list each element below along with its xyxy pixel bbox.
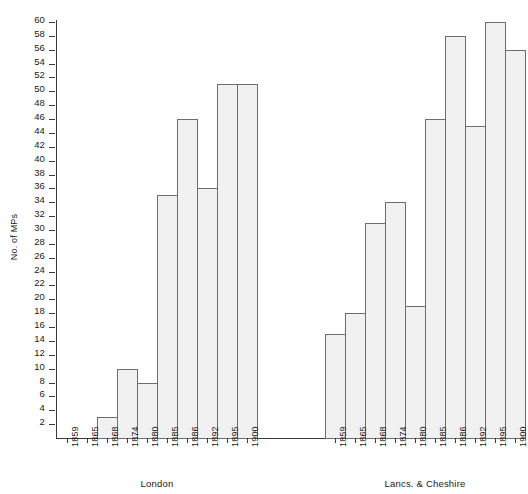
y-tick-mark (49, 396, 55, 397)
y-tick-label: 38 (15, 168, 45, 178)
y-tick-label: 54 (15, 57, 45, 67)
group-title-lancs-cheshire: Lancs. & Cheshire (325, 478, 525, 489)
y-tick-mark (49, 244, 55, 245)
y-tick-label: 40 (15, 154, 45, 164)
y-tick-label: 24 (15, 265, 45, 275)
y-tick-mark (49, 105, 55, 106)
x-tick-label: 1895 (231, 426, 240, 447)
y-tick-mark (49, 424, 55, 425)
bar (505, 50, 526, 439)
y-tick-mark (49, 64, 55, 65)
y-tick-mark (49, 50, 55, 51)
x-tick-label: 1895 (499, 426, 508, 447)
y-tick-label: 2 (15, 417, 45, 427)
bar (197, 188, 218, 439)
x-tick-label: 1859 (71, 426, 80, 447)
bar (345, 313, 366, 439)
y-tick-label: 56 (15, 43, 45, 53)
y-tick-mark (49, 299, 55, 300)
x-tick-mark (515, 438, 516, 443)
y-tick-label: 10 (15, 362, 45, 372)
y-tick-label: 18 (15, 306, 45, 316)
y-tick-mark (49, 327, 55, 328)
x-tick-label: 1885 (171, 426, 180, 447)
bar (217, 84, 238, 439)
x-tick-mark (415, 438, 416, 443)
x-tick-mark (475, 438, 476, 443)
y-tick-label: 52 (15, 70, 45, 80)
y-tick-label: 60 (15, 15, 45, 25)
x-tick-label: 1886 (459, 426, 468, 447)
x-tick-label: 1885 (439, 426, 448, 447)
y-tick-label: 36 (15, 181, 45, 191)
x-tick-mark (127, 438, 128, 443)
y-tick-label: 32 (15, 209, 45, 219)
y-tick-mark (49, 77, 55, 78)
bar (445, 36, 466, 439)
x-tick-label: 1868 (111, 426, 120, 447)
x-tick-label: 1900 (519, 426, 528, 447)
x-tick-mark (495, 438, 496, 443)
bar (157, 195, 178, 439)
x-tick-mark (187, 438, 188, 443)
y-tick-mark (49, 175, 55, 176)
x-tick-label: 1865 (91, 426, 100, 447)
x-tick-mark (375, 438, 376, 443)
y-tick-label: 14 (15, 334, 45, 344)
y-tick-mark (49, 22, 55, 23)
y-tick-mark (49, 313, 55, 314)
x-tick-label: 1892 (211, 426, 220, 447)
x-tick-label: 1880 (151, 426, 160, 447)
x-tick-mark (355, 438, 356, 443)
y-tick-mark (49, 36, 55, 37)
x-tick-label: 1880 (419, 426, 428, 447)
y-tick-mark (49, 119, 55, 120)
y-tick-mark (49, 147, 55, 148)
bar (385, 202, 406, 439)
x-tick-mark (455, 438, 456, 443)
group-title-london: London (57, 478, 257, 489)
y-tick-mark (49, 272, 55, 273)
y-tick-mark (49, 133, 55, 134)
y-tick-label: 12 (15, 348, 45, 358)
bar (465, 126, 486, 439)
x-tick-label: 1892 (479, 426, 488, 447)
y-tick-label: 42 (15, 140, 45, 150)
y-tick-mark (49, 383, 55, 384)
x-tick-mark (435, 438, 436, 443)
y-tick-mark (49, 355, 55, 356)
bar (177, 119, 198, 439)
x-tick-mark (67, 438, 68, 443)
y-tick-label: 58 (15, 29, 45, 39)
y-tick-mark (49, 216, 55, 217)
y-tick-label: 30 (15, 223, 45, 233)
x-tick-mark (167, 438, 168, 443)
y-tick-label: 28 (15, 237, 45, 247)
y-tick-label: 50 (15, 84, 45, 94)
x-tick-mark (87, 438, 88, 443)
y-tick-label: 20 (15, 292, 45, 302)
y-tick-mark (49, 410, 55, 411)
y-tick-label: 8 (15, 376, 45, 386)
x-tick-mark (147, 438, 148, 443)
y-tick-mark (49, 230, 55, 231)
y-tick-label: 16 (15, 320, 45, 330)
y-tick-label: 26 (15, 251, 45, 261)
bar (425, 119, 446, 439)
y-tick-label: 6 (15, 389, 45, 399)
x-tick-mark (247, 438, 248, 443)
x-tick-label: 1874 (131, 426, 140, 447)
bar (325, 334, 346, 439)
y-tick-mark (49, 285, 55, 286)
x-tick-label: 1859 (339, 426, 348, 447)
x-tick-mark (395, 438, 396, 443)
bar (237, 84, 258, 439)
x-tick-label: 1886 (191, 426, 200, 447)
y-tick-label: 22 (15, 278, 45, 288)
y-tick-mark (49, 161, 55, 162)
x-tick-label: 1900 (251, 426, 260, 447)
y-tick-mark (49, 202, 55, 203)
y-tick-label: 44 (15, 126, 45, 136)
y-tick-label: 34 (15, 195, 45, 205)
